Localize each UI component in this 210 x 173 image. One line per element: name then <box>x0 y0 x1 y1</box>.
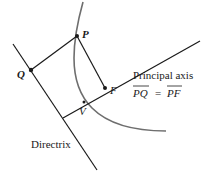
point-p-dot <box>75 34 79 38</box>
point-f-dot <box>103 86 107 90</box>
segment-pf <box>77 36 105 88</box>
label-f: F <box>109 84 117 96</box>
equation-lhs: PQ <box>132 87 148 99</box>
parabola-diagram: P Q F V Principal axis PQ = PF Directrix <box>0 0 210 173</box>
principal-axis-label: Principal axis <box>133 69 193 81</box>
parabola-curve <box>74 2 166 131</box>
directrix-label: Directrix <box>31 138 71 150</box>
label-q: Q <box>17 68 25 80</box>
label-p: P <box>82 28 89 40</box>
point-v-dot <box>83 101 86 104</box>
equation-equals: = <box>155 87 161 99</box>
segment-pq <box>31 36 77 70</box>
equation-rhs: PF <box>166 87 181 99</box>
label-v: V <box>79 105 87 117</box>
point-q-dot <box>29 68 33 72</box>
